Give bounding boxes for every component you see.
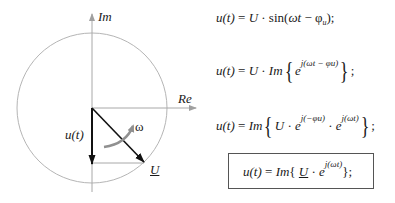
eq-amplitude: U <box>249 63 258 78</box>
equation-2: u(t) = U · Im{ej(ωt − φu)}; <box>0 52 395 82</box>
eq-dot: · <box>328 118 332 133</box>
equation-4: u(t) = Im{ U · ej(ωt)}; <box>0 164 395 180</box>
eq-omega-t: ωt <box>288 10 301 25</box>
eq-exponent: j(ωt) <box>325 159 342 169</box>
eq-lhs: u(t) <box>216 10 235 25</box>
eq-im: Im <box>249 118 263 133</box>
eq-minus: − <box>304 10 311 25</box>
eq-dot: · <box>311 164 315 179</box>
eq-phi-sub: u <box>323 18 327 27</box>
eq-lbrace: { <box>289 164 295 179</box>
real-axis-label: Re <box>178 92 192 105</box>
eq-im: Im <box>276 164 290 179</box>
eq-e: e <box>295 63 301 78</box>
eq-semi: ; <box>371 118 375 133</box>
eq-lhs: u(t) <box>216 63 235 78</box>
eq-dot: · <box>261 10 265 25</box>
eq-phi: φ <box>315 10 323 25</box>
equation-1: u(t) = U · sin(ωt − φu); <box>0 10 395 26</box>
eq-exponent: j(−φu) <box>301 113 325 123</box>
eq-close: ); <box>327 10 335 25</box>
eq-complex-amplitude: U <box>299 164 308 179</box>
eq-rbrace: } <box>340 56 349 86</box>
eq-lbrace: { <box>264 111 273 141</box>
eq-exponent: j(ωt − φu) <box>301 58 338 68</box>
eq-e: e <box>336 118 342 133</box>
eq-lbrace: { <box>284 56 293 86</box>
eq-rbrace: } <box>361 111 370 141</box>
eq-e: e <box>319 164 325 179</box>
eq-semi: ; <box>348 164 352 179</box>
eq-equals: = <box>265 164 272 179</box>
eq-exponent: j(ωt) <box>342 113 359 123</box>
eq-sin: sin <box>269 10 284 25</box>
eq-amplitude: U <box>275 118 284 133</box>
equation-3: u(t) = Im{U · ej(−φu) · ej(ωt)}; <box>0 107 395 137</box>
eq-amplitude: U <box>249 10 258 25</box>
eq-equals: = <box>238 118 245 133</box>
eq-im: Im <box>269 63 283 78</box>
eq-lhs: u(t) <box>216 118 235 133</box>
eq-equals: = <box>238 10 245 25</box>
eq-semi: ; <box>351 63 355 78</box>
eq-lhs: u(t) <box>243 164 262 179</box>
eq-equals: = <box>238 63 245 78</box>
eq-dot: · <box>261 63 265 78</box>
eq-dot: · <box>287 118 291 133</box>
eq-e: e <box>295 118 301 133</box>
